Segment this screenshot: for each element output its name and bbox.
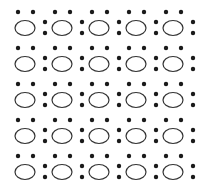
side-dot <box>191 92 195 96</box>
side-dot <box>80 92 84 96</box>
top-dot <box>16 10 20 14</box>
ellipse-shape <box>89 93 109 108</box>
top-dot <box>53 118 57 122</box>
side-dot <box>43 67 47 71</box>
side-dot <box>191 56 195 60</box>
ellipse-shape <box>89 57 109 72</box>
ellipse-shape <box>52 129 72 144</box>
ellipse-shape <box>15 21 35 36</box>
side-dot <box>43 175 47 179</box>
top-dot <box>90 82 94 86</box>
top-dot <box>90 118 94 122</box>
side-dot <box>154 164 158 168</box>
side-dot <box>117 67 121 71</box>
side-dot <box>117 139 121 143</box>
side-dot <box>80 20 84 24</box>
top-dot <box>142 46 146 50</box>
side-dot <box>154 67 158 71</box>
side-dot <box>117 175 121 179</box>
top-dot <box>68 10 72 14</box>
top-dot <box>53 154 57 158</box>
top-dot <box>127 82 131 86</box>
top-dot <box>179 154 183 158</box>
side-dot <box>191 164 195 168</box>
ellipse-shape <box>163 21 183 36</box>
side-dot <box>191 31 195 35</box>
ellipse-shape <box>15 165 35 180</box>
top-dot <box>68 118 72 122</box>
top-dot <box>105 46 109 50</box>
top-dot <box>31 82 35 86</box>
side-dot <box>43 92 47 96</box>
top-dot <box>142 10 146 14</box>
side-dot <box>43 128 47 132</box>
side-dot <box>80 175 84 179</box>
top-dot <box>179 46 183 50</box>
ellipse-shape <box>163 129 183 144</box>
top-dot <box>90 154 94 158</box>
side-dot <box>191 128 195 132</box>
ellipse-shape <box>126 129 146 144</box>
side-dot <box>80 128 84 132</box>
side-dot <box>43 139 47 143</box>
ellipse-shape <box>126 21 146 36</box>
top-dot <box>179 118 183 122</box>
side-dot <box>117 31 121 35</box>
side-dot <box>117 56 121 60</box>
top-dot <box>31 10 35 14</box>
side-dot <box>154 20 158 24</box>
side-dot <box>154 31 158 35</box>
ellipse-shape <box>15 129 35 144</box>
side-dot <box>154 175 158 179</box>
side-dot <box>80 139 84 143</box>
top-dot <box>53 46 57 50</box>
top-dot <box>179 10 183 14</box>
side-dot <box>80 31 84 35</box>
side-dot <box>80 164 84 168</box>
side-dot <box>117 20 121 24</box>
top-dot <box>164 154 168 158</box>
side-dot <box>154 139 158 143</box>
top-dot <box>105 82 109 86</box>
top-dot <box>105 154 109 158</box>
top-dot <box>164 46 168 50</box>
top-dot <box>127 46 131 50</box>
ellipse-shape <box>52 165 72 180</box>
top-dot <box>179 82 183 86</box>
top-dot <box>90 10 94 14</box>
side-dot <box>117 164 121 168</box>
side-dot <box>80 56 84 60</box>
top-dot <box>31 46 35 50</box>
ellipse-shape <box>15 57 35 72</box>
top-dot <box>142 154 146 158</box>
side-dot <box>191 67 195 71</box>
top-dot <box>127 118 131 122</box>
side-dot <box>191 20 195 24</box>
top-dot <box>90 46 94 50</box>
ellipse-shape <box>163 93 183 108</box>
side-dot <box>191 175 195 179</box>
top-dot <box>127 10 131 14</box>
side-dot <box>43 31 47 35</box>
side-dot <box>43 20 47 24</box>
top-dot <box>164 82 168 86</box>
side-dot <box>80 103 84 107</box>
side-dot <box>154 103 158 107</box>
top-dot <box>68 154 72 158</box>
side-dot <box>117 103 121 107</box>
top-dot <box>31 118 35 122</box>
side-dot <box>191 103 195 107</box>
side-dot <box>117 128 121 132</box>
top-dot <box>105 10 109 14</box>
top-dot <box>68 82 72 86</box>
top-dot <box>16 118 20 122</box>
dot-ellipse-pattern <box>0 0 222 182</box>
top-dot <box>127 154 131 158</box>
top-dot <box>53 82 57 86</box>
top-dot <box>31 154 35 158</box>
ellipse-shape <box>163 165 183 180</box>
top-dot <box>105 118 109 122</box>
top-dot <box>68 46 72 50</box>
side-dot <box>43 56 47 60</box>
side-dot <box>117 92 121 96</box>
